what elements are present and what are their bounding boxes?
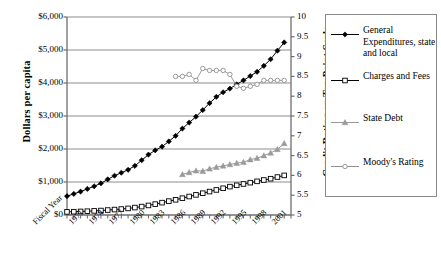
data-point	[153, 202, 158, 207]
data-point	[268, 78, 272, 82]
data-point	[173, 198, 178, 203]
y-axis-right-tick-label: 5	[297, 210, 323, 219]
y-axis-left-tick-label: $1,000	[17, 177, 63, 186]
data-point	[248, 73, 253, 78]
data-point	[146, 203, 151, 208]
data-point	[221, 186, 226, 191]
legend-label: Charges and Fees	[363, 71, 430, 83]
data-point	[268, 150, 274, 155]
data-point	[342, 32, 347, 37]
data-point	[228, 72, 232, 76]
data-point	[275, 175, 280, 180]
y-axis-left-tick-label: $4,000	[17, 78, 63, 87]
data-point	[281, 140, 287, 145]
legend-label: State Debt	[363, 113, 403, 125]
data-point	[200, 191, 205, 196]
series-line	[182, 143, 284, 174]
legend-item: General Expenditures, state and local	[330, 25, 436, 60]
data-point	[207, 189, 212, 194]
data-point	[248, 180, 253, 185]
legend-label: General Expenditures, state and local	[363, 25, 436, 60]
data-point	[126, 206, 131, 211]
series-1	[64, 40, 286, 199]
legend-item: Moody's Rating	[330, 157, 436, 169]
data-point	[221, 68, 225, 72]
data-point	[125, 167, 130, 172]
chart-figure: Dollars per capita Credit Rating on Ten …	[0, 0, 441, 275]
data-point	[262, 78, 266, 82]
data-point	[64, 194, 69, 199]
data-point	[343, 78, 348, 83]
legend-marker-open-square-icon	[330, 72, 360, 83]
data-point	[262, 178, 267, 183]
data-point	[167, 199, 172, 204]
y-axis-right-tick-label: 8	[297, 91, 323, 100]
data-point	[241, 78, 246, 83]
data-point	[241, 86, 245, 90]
data-point	[268, 176, 273, 181]
y-axis-right-tick-label: 10	[297, 12, 323, 21]
y-axis-right-tick-label: 6.5	[297, 151, 323, 160]
legend-item: State Debt	[330, 113, 436, 125]
data-point	[153, 148, 158, 153]
data-point	[214, 188, 219, 193]
y-axis-right-tick-label: 7.5	[297, 111, 323, 120]
data-point	[180, 196, 185, 201]
data-point	[282, 173, 287, 178]
series-3	[179, 140, 287, 176]
data-point	[194, 193, 199, 198]
series-line	[67, 42, 284, 196]
y-axis-right-tick-label: 7	[297, 131, 323, 140]
data-point	[255, 82, 259, 86]
data-point	[71, 191, 76, 196]
data-point	[160, 200, 165, 205]
data-point	[275, 78, 279, 82]
legend-item: Charges and Fees	[330, 71, 436, 83]
y-axis-right-tick-label: 5.5	[297, 190, 323, 199]
data-point	[214, 68, 218, 72]
data-point	[207, 68, 211, 72]
data-point	[282, 78, 286, 82]
data-point	[85, 209, 90, 214]
data-point	[78, 189, 83, 194]
y-axis-left-tick-label: $6,000	[17, 12, 63, 21]
data-point	[112, 173, 117, 178]
data-point	[180, 74, 184, 78]
legend-marker-open-circle-icon	[330, 158, 360, 169]
data-point	[173, 74, 177, 78]
legend: General Expenditures, state and localCha…	[325, 14, 437, 197]
legend-label: Moody's Rating	[363, 157, 424, 169]
data-point	[228, 184, 233, 189]
data-point	[105, 177, 110, 182]
data-point	[187, 72, 191, 76]
y-axis-left-tick-label: $5,000	[17, 45, 63, 54]
y-axis-right-tick-label: 9	[297, 52, 323, 61]
legend-marker-filled-diamond-icon	[330, 26, 360, 37]
data-point	[343, 164, 347, 168]
data-point	[187, 194, 192, 199]
data-point	[241, 182, 246, 187]
y-axis-left-tick-label: $2,000	[17, 144, 63, 153]
data-point	[119, 170, 124, 175]
legend-marker-filled-triangle-icon	[330, 114, 360, 125]
data-point	[65, 210, 70, 215]
y-axis-right-tick-label: 6	[297, 170, 323, 179]
data-point	[105, 208, 110, 213]
data-point	[201, 66, 205, 70]
data-point	[194, 78, 198, 82]
data-point	[227, 86, 232, 91]
y-axis-right-tick-label: 8.5	[297, 71, 323, 80]
data-point	[234, 84, 238, 88]
data-point	[234, 183, 239, 188]
data-point	[98, 181, 103, 186]
data-point	[248, 84, 252, 88]
y-axis-left-tick-label: $3,000	[17, 111, 63, 120]
series-line	[176, 68, 285, 88]
data-point	[85, 186, 90, 191]
data-point	[92, 184, 97, 189]
data-point	[255, 179, 260, 184]
y-axis-right-tick-label: 9.5	[297, 32, 323, 41]
